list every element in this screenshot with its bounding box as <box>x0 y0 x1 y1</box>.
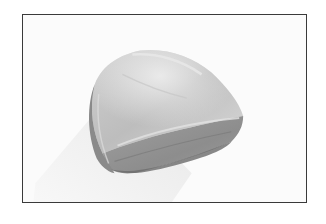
photo-frame: Grayscale photograph of a raw cut of mea… <box>22 14 307 203</box>
meat-photo <box>23 15 306 202</box>
figure-canvas: Grayscale photograph of a raw cut of mea… <box>0 0 326 224</box>
